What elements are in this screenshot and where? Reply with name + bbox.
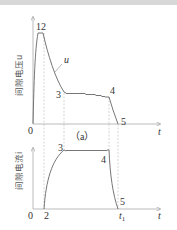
current-y-label: 间隙电流i	[14, 152, 24, 190]
point-label-3: 3	[56, 89, 61, 100]
x-axis-label-t: t	[158, 210, 161, 221]
waveform-diagram: 12 u 3 4 5 0 t 间隙电压u （a） 3 4 5 0 2 t1 t …	[0, 0, 177, 230]
origin-label: 0	[28, 125, 33, 136]
current-curve	[44, 150, 118, 209]
origin-label: 0	[28, 210, 33, 221]
caption-a: （a）	[70, 131, 94, 142]
point-label-3: 3	[58, 142, 63, 153]
voltage-curve	[33, 33, 118, 124]
point-label-2: 2	[44, 210, 49, 221]
end-time-label: t1	[119, 210, 126, 223]
curve-leader	[55, 64, 62, 72]
point-label-5: 5	[120, 196, 125, 207]
voltage-y-label: 间隙电压u	[14, 55, 24, 96]
curve-label-u: u	[64, 54, 69, 65]
point-label-4: 4	[101, 154, 106, 165]
x-axis-label-t: t	[158, 126, 161, 137]
point-label-4: 4	[110, 85, 115, 96]
point-label-12: 12	[36, 21, 46, 32]
voltage-plot: 12 u 3 4 5 0 t 间隙电压u	[14, 17, 161, 137]
end-time-sub: 1	[122, 215, 126, 223]
point-label-5: 5	[121, 116, 126, 127]
